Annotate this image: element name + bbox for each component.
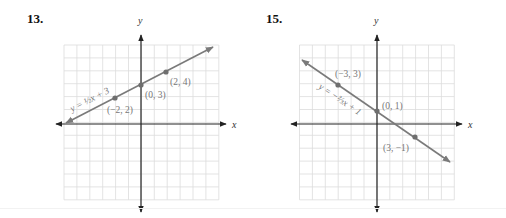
point-label-13-c: (2, 4) [170, 77, 191, 88]
y-axis-label-13: y [137, 15, 143, 26]
data-point-13-b [138, 82, 143, 87]
data-point-13-c [163, 69, 168, 74]
graph-13: x y (−2, 2) (0, 3) (2, 4) y = ½x + 3 [56, 15, 237, 212]
point-label-13-b: (0, 3) [145, 90, 166, 101]
page-edge-divider [0, 208, 506, 209]
point-label-15-c: (3, −1) [383, 143, 409, 154]
data-point-15-a [335, 82, 340, 87]
x-axis-label-13: x [231, 119, 237, 130]
graph-15: x y (−3, 3) (0, 1) (3, −1) y = −⅔x + 1 [291, 15, 473, 212]
equation-label-13: y = ½x + 3 [67, 85, 111, 114]
point-label-15-a: (−3, 3) [335, 69, 361, 80]
data-point-15-b [374, 108, 379, 113]
graphs-canvas: x y (−2, 2) (0, 3) (2, 4) y = ½x + 3 x y… [0, 0, 506, 218]
data-point-13-a [112, 95, 117, 100]
x-axis-label-15: x [467, 119, 473, 130]
point-label-15-b: (0, 1) [382, 101, 403, 112]
y-axis-label-15: y [373, 15, 379, 26]
data-point-15-c [412, 134, 417, 139]
point-label-13-a: (−2, 2) [107, 105, 133, 116]
